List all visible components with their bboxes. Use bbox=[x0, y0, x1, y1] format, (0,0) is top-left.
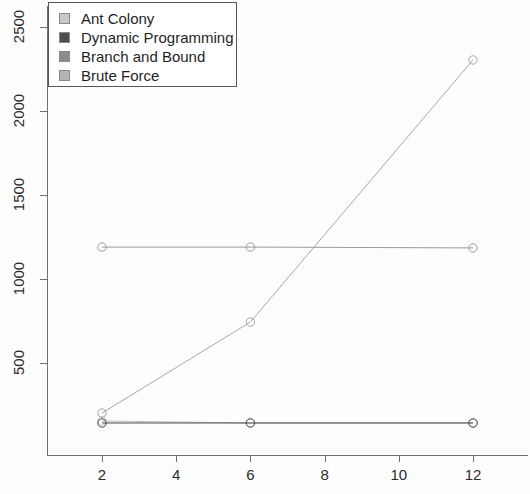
y-tick-label: 2500 bbox=[11, 9, 26, 45]
line-chart: 5001000150020002500 24681012 Ant Colony … bbox=[0, 0, 530, 494]
x-tick-mark bbox=[102, 455, 103, 462]
x-axis-line bbox=[47, 455, 528, 456]
legend-item-label: Dynamic Programming bbox=[81, 29, 234, 46]
x-tick-label: 6 bbox=[230, 467, 270, 483]
data-point-marker bbox=[98, 417, 106, 425]
x-tick-mark bbox=[473, 455, 474, 462]
data-point-marker bbox=[98, 409, 106, 417]
series-ant-colony bbox=[98, 417, 477, 427]
legend-item-label: Branch and Bound bbox=[81, 48, 205, 65]
y-tick-label: 2000 bbox=[11, 93, 26, 129]
x-tick-label: 8 bbox=[305, 467, 345, 483]
x-tick-label: 2 bbox=[82, 467, 122, 483]
data-point-marker bbox=[246, 318, 254, 326]
series-branch-and-bound bbox=[98, 243, 477, 252]
x-tick-label: 4 bbox=[156, 467, 196, 483]
data-point-marker bbox=[469, 56, 477, 64]
y-tick-label: 1000 bbox=[11, 261, 26, 297]
series-line bbox=[102, 247, 473, 248]
x-tick-mark bbox=[399, 455, 400, 462]
y-tick-mark bbox=[40, 111, 47, 112]
data-point-marker bbox=[98, 243, 106, 251]
legend-item-dynamic-programming[interactable]: Dynamic Programming bbox=[59, 28, 236, 47]
x-tick-label: 10 bbox=[379, 467, 419, 483]
series-dynamic-programming bbox=[98, 419, 477, 427]
y-tick-mark bbox=[40, 195, 47, 196]
data-point-marker bbox=[98, 419, 106, 427]
data-point-marker bbox=[469, 244, 477, 252]
data-point-marker bbox=[469, 419, 477, 427]
y-tick-mark bbox=[40, 363, 47, 364]
data-point-marker bbox=[469, 419, 477, 427]
y-tick-label: 500 bbox=[11, 345, 26, 381]
y-tick-mark bbox=[40, 27, 47, 28]
legend-item-branch-and-bound[interactable]: Branch and Bound bbox=[59, 47, 236, 66]
x-tick-mark bbox=[250, 455, 251, 462]
legend-item-ant-colony[interactable]: Ant Colony bbox=[59, 9, 236, 28]
data-point-marker bbox=[246, 243, 254, 251]
legend-item-label: Brute Force bbox=[81, 67, 159, 84]
x-tick-label: 12 bbox=[453, 467, 493, 483]
y-tick-mark bbox=[40, 279, 47, 280]
legend-swatch-icon bbox=[59, 32, 70, 43]
series-line bbox=[102, 421, 473, 423]
legend-swatch-icon bbox=[59, 70, 70, 81]
legend-swatch-icon bbox=[59, 51, 70, 62]
y-tick-label: 1500 bbox=[11, 177, 26, 213]
data-point-marker bbox=[246, 419, 254, 427]
legend: Ant Colony Dynamic Programming Branch an… bbox=[48, 2, 237, 87]
x-tick-mark bbox=[325, 455, 326, 462]
series-line bbox=[102, 60, 473, 413]
series-brute-force bbox=[98, 56, 477, 418]
legend-item-label: Ant Colony bbox=[81, 10, 154, 27]
legend-item-brute-force[interactable]: Brute Force bbox=[59, 66, 236, 85]
legend-swatch-icon bbox=[59, 13, 70, 24]
data-point-marker bbox=[246, 419, 254, 427]
x-tick-mark bbox=[176, 455, 177, 462]
